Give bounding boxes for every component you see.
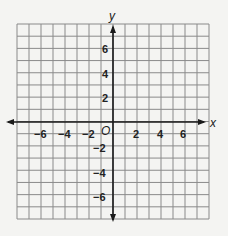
coordinate-plane: x y O −6 −4 −2 2 4 6 6 4 2 −2 −4 −6 xyxy=(0,0,228,236)
y-tick-label: 2 xyxy=(102,92,108,104)
x-tick-label: −2 xyxy=(82,128,95,140)
x-tick-label: 6 xyxy=(180,128,186,140)
x-axis-label: x xyxy=(209,116,217,130)
y-axis-down-arrow-icon xyxy=(110,214,116,222)
y-axis xyxy=(110,25,116,222)
y-axis-up-arrow-icon xyxy=(110,25,116,33)
x-axis-left-arrow-icon xyxy=(6,119,14,125)
y-tick-label: 6 xyxy=(102,43,108,55)
y-axis-label: y xyxy=(108,9,116,23)
y-tick-label: −4 xyxy=(93,167,106,179)
origin-label: O xyxy=(101,124,110,138)
y-tick-label: −2 xyxy=(93,142,106,154)
x-axis-right-arrow-icon xyxy=(198,119,206,125)
x-tick-label: 2 xyxy=(133,128,139,140)
y-tick-label: −6 xyxy=(93,191,106,203)
x-tick-label: −6 xyxy=(34,128,47,140)
y-tick-label: 4 xyxy=(102,68,109,80)
x-tick-label: 4 xyxy=(157,128,164,140)
x-tick-label: −4 xyxy=(58,128,71,140)
